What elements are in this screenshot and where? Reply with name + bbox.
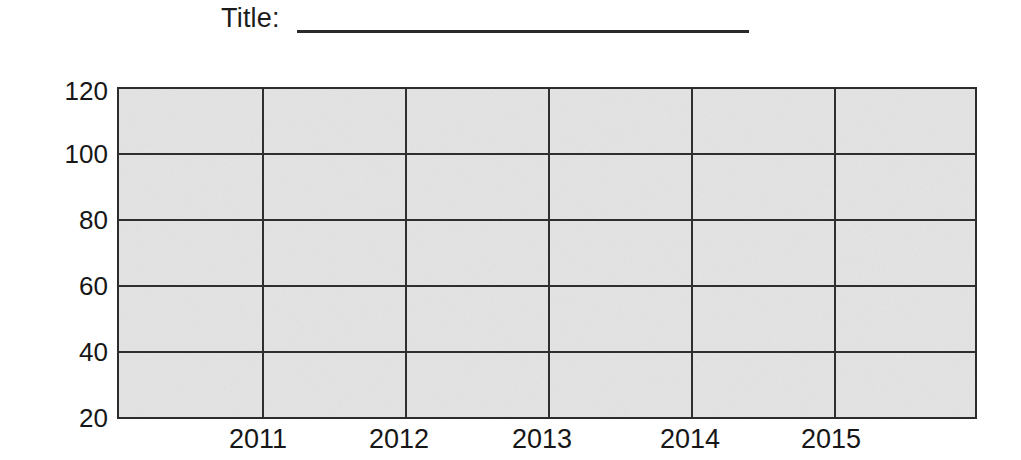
x-tick-label-2015: 2015 bbox=[771, 424, 891, 454]
x-axis-labels: 2011 2012 2013 2014 2015 bbox=[0, 0, 1021, 460]
blank-grid-chart: 120 100 80 60 40 20 2011 2012 2013 2014 … bbox=[0, 0, 1021, 460]
x-tick-label-2011: 2011 bbox=[198, 424, 318, 454]
x-tick-label-2012: 2012 bbox=[339, 424, 459, 454]
x-tick-label-2013: 2013 bbox=[482, 424, 602, 454]
x-tick-label-2014: 2014 bbox=[630, 424, 750, 454]
